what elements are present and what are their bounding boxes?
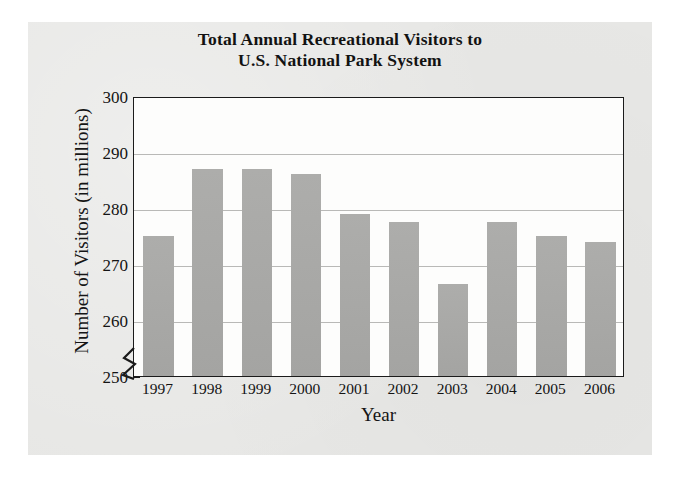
x-axis-tick-label: 2000 <box>280 381 329 397</box>
bar <box>291 174 321 376</box>
x-axis-title: Year <box>133 404 624 426</box>
bar <box>389 222 419 376</box>
bar <box>585 242 615 376</box>
x-axis-tick-label: 1997 <box>133 381 182 397</box>
bar <box>192 169 222 376</box>
bar <box>536 236 566 376</box>
gridline <box>134 154 623 155</box>
x-axis-tick-label: 2005 <box>526 381 575 397</box>
bar <box>340 214 370 376</box>
y-axis-tick-label: 270 <box>82 257 128 274</box>
axis-break-icon <box>118 346 142 380</box>
bar <box>143 236 173 376</box>
chart-title-line1: Total Annual Recreational Visitors to <box>198 29 483 49</box>
y-axis-tick-label: 280 <box>82 201 128 218</box>
bar <box>438 284 468 376</box>
x-axis-tick-label: 2001 <box>329 381 378 397</box>
x-axis-tick-label: 2002 <box>379 381 428 397</box>
plot-area <box>133 97 624 377</box>
y-axis-tick-label: 300 <box>82 89 128 106</box>
chart-title-line2: U.S. National Park System <box>110 50 570 71</box>
bar <box>487 222 517 376</box>
y-axis-tick-label: 260 <box>82 313 128 330</box>
x-axis-tick-label: 2004 <box>477 381 526 397</box>
x-axis-tick-label: 2003 <box>428 381 477 397</box>
y-axis-tick-labels: 300290280270260250 <box>78 97 128 377</box>
chart-title: Total Annual Recreational Visitors to U.… <box>110 29 570 71</box>
x-axis-tick-label: 1998 <box>182 381 231 397</box>
x-axis-tick-label: 2006 <box>575 381 624 397</box>
y-axis-tick-label: 290 <box>82 145 128 162</box>
bar <box>242 169 272 376</box>
x-axis-tick-label: 1999 <box>231 381 280 397</box>
